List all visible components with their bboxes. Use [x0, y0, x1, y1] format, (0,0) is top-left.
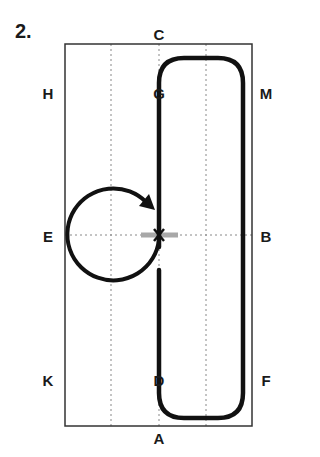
marker-d: D: [154, 373, 165, 388]
marker-e: E: [43, 229, 53, 244]
marker-h: H: [43, 86, 54, 101]
marker-f: F: [261, 373, 270, 388]
marker-k: K: [43, 373, 54, 388]
marker-m: M: [260, 86, 273, 101]
marker-a: A: [154, 431, 165, 446]
marker-b: B: [261, 229, 272, 244]
marker-c: C: [154, 27, 165, 42]
track-path: [159, 58, 243, 418]
marker-g: G: [153, 86, 165, 101]
